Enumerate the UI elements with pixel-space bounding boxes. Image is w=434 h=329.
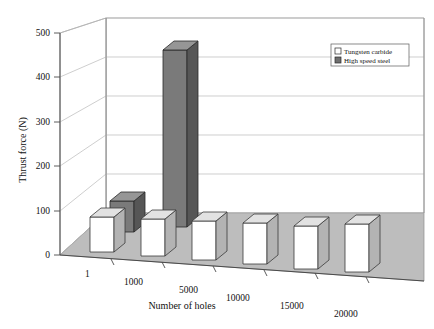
y-tick-label-200: 200 [36, 161, 51, 171]
y-axis: 500 400 300 200 100 0 Thrust force (N) [17, 28, 60, 260]
x-tick-label-20000: 20000 [334, 309, 358, 319]
legend-swatch-high-speed-steel [335, 57, 341, 63]
bar-tungsten-carbide-20000 [345, 215, 380, 272]
legend-label-tungsten-carbide: Tungsten carbide [344, 48, 392, 56]
bar-tungsten-carbide-1000 [141, 210, 176, 256]
y-tick-label-500: 500 [36, 28, 51, 38]
x-tick-label-1000: 1000 [124, 277, 143, 287]
y-axis-title: Thrust force (N) [17, 117, 29, 183]
bar-high-speed-steel-1000 [163, 41, 198, 227]
bar-tungsten-carbide-15000 [294, 217, 329, 269]
bar-tungsten-carbide-1 [90, 208, 125, 252]
x-tick-label-15000: 15000 [280, 301, 304, 311]
legend: Tungsten carbide High speed steel [331, 44, 409, 66]
thrust-force-bar-chart: 500 400 300 200 100 0 Thrust force (N) [0, 0, 434, 329]
chart-canvas: 500 400 300 200 100 0 Thrust force (N) [0, 0, 434, 329]
x-tick-label-10000: 10000 [226, 293, 250, 303]
bar-tungsten-carbide-5000 [192, 212, 227, 260]
legend-label-high-speed-steel: High speed steel [344, 57, 390, 65]
bar-tungsten-carbide-10000 [243, 214, 278, 264]
y-tick-label-0: 0 [45, 250, 50, 260]
legend-swatch-tungsten-carbide [335, 48, 341, 54]
y-tick-label-300: 300 [36, 117, 51, 127]
y-tick-label-100: 100 [36, 206, 51, 216]
y-tick-label-400: 400 [36, 72, 51, 82]
x-tick-label-5000: 5000 [179, 285, 198, 295]
x-tick-label-1: 1 [85, 269, 90, 279]
x-axis-title: Number of holes [148, 300, 215, 311]
